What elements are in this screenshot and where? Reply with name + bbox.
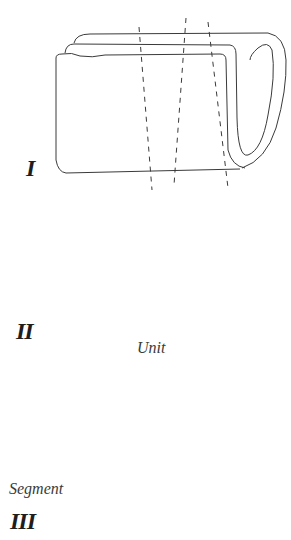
panel-label-i: I: [26, 155, 34, 182]
panel-label-ii: II: [16, 318, 33, 345]
panel-label-iii: III: [10, 508, 35, 535]
segment-caption: Segment: [9, 480, 63, 498]
unit-caption: Unit: [137, 339, 165, 357]
panel-i-rolled-sheet: [56, 18, 286, 190]
figure-canvas: [0, 0, 291, 540]
